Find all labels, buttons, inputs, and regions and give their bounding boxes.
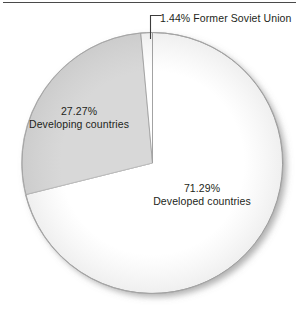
slice-name-developing: Developing countries	[17, 118, 141, 131]
slice-percent-developed: 71.29%	[135, 182, 269, 195]
slice-name-former-soviet-union: Former Soviet Union	[190, 12, 291, 24]
slice-label-developing: 27.27% Developing countries	[17, 105, 141, 131]
pie-svg	[0, 0, 299, 313]
slice-name-developed: Developed countries	[135, 195, 269, 208]
pie-chart-figure: 1.44% Former Soviet Union 27.27% Develop…	[0, 0, 299, 313]
slice-label-developed: 71.29% Developed countries	[135, 182, 269, 208]
slice-label-former-soviet-union: 1.44% Former Soviet Union	[160, 12, 298, 24]
slice-percent-former-soviet-union: 1.44%	[160, 12, 190, 24]
chart-plot-area: 1.44% Former Soviet Union 27.27% Develop…	[0, 0, 299, 313]
slice-percent-developing: 27.27%	[17, 105, 141, 118]
